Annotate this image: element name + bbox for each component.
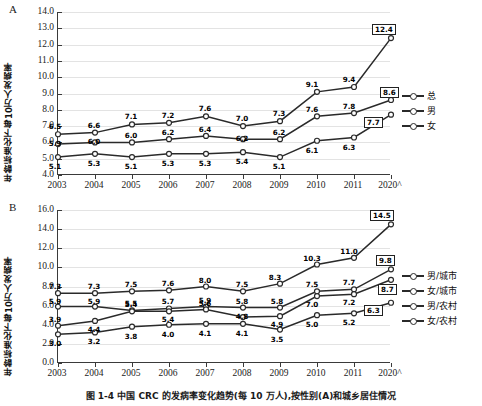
data-label: 10.3 — [300, 254, 324, 263]
data-label: 4.4 — [82, 325, 106, 334]
legend-item[interactable]: 女/农村 — [402, 313, 457, 328]
data-label: 6.0 — [82, 137, 106, 146]
data-label: 4.1 — [230, 329, 254, 338]
y-axis-tick-label: 0.0 — [42, 357, 54, 367]
data-point-marker — [315, 262, 320, 267]
data-label: 6.5 — [43, 122, 67, 131]
data-label: 5.1 — [267, 162, 291, 171]
data-point-marker — [56, 132, 61, 137]
x-axis-tick-mark — [391, 363, 392, 367]
data-point-marker — [204, 284, 209, 289]
data-label: 3.2 — [82, 337, 106, 346]
legend-label: 女/农村 — [427, 314, 457, 327]
y-axis-tick-label: 10.0 — [37, 261, 54, 271]
data-label: 7.7 — [364, 117, 383, 128]
data-label: 5.1 — [119, 162, 143, 171]
chart-panel-a: A 年龄标准化下每10万人发病率 总男女 4.05.06.07.08.09.01… — [0, 0, 482, 196]
data-point-marker — [352, 84, 357, 89]
data-point-marker — [130, 140, 135, 145]
data-label: 7.6 — [156, 279, 180, 288]
data-point-marker — [389, 222, 394, 227]
data-label: 7.2 — [156, 111, 180, 120]
chart-panel-b: B 年龄标准化下每10万人发病率 男/城市女/城市男/农村女/农村 0.02.0… — [0, 196, 482, 388]
data-label: 5.2 — [337, 318, 361, 327]
legend-marker-icon — [402, 121, 424, 131]
x-axis-tick-mark — [58, 363, 59, 367]
legend-label: 女 — [427, 119, 436, 132]
data-point-marker — [167, 151, 172, 156]
y-axis-tick-label: 14.0 — [37, 223, 54, 233]
data-point-marker — [130, 289, 135, 294]
legend-item[interactable]: 女 — [402, 118, 436, 133]
data-label: 3.9 — [43, 315, 67, 324]
data-point-marker — [389, 112, 394, 117]
data-label: 4.8 — [230, 312, 254, 321]
panel-b-y-axis-label: 年龄标准化下每10万人发病率 — [3, 212, 15, 376]
legend-item[interactable]: 男/农村 — [402, 298, 457, 313]
data-label: 5.3 — [193, 159, 217, 168]
data-point-marker — [56, 323, 61, 328]
x-axis-tick-mark — [132, 175, 133, 179]
y-axis-tick-label: 9.0 — [42, 88, 54, 98]
data-label: 7.5 — [300, 280, 324, 289]
legend-label: 男/城市 — [427, 269, 457, 282]
legend-item[interactable]: 男/城市 — [402, 268, 457, 283]
panel-a-y-axis-label: 年龄标准化下每10万人发病率 — [3, 14, 15, 182]
data-point-marker — [130, 155, 135, 160]
x-axis-tick-mark — [206, 175, 207, 179]
legend-marker-icon — [402, 286, 424, 296]
data-point-marker — [315, 294, 320, 299]
y-axis-tick-label: 11.0 — [38, 55, 54, 65]
data-label: 7.0 — [230, 114, 254, 123]
x-axis-tick-mark — [243, 175, 244, 179]
data-label: 5.3 — [156, 159, 180, 168]
x-axis-tick-mark — [317, 175, 318, 179]
data-point-marker — [56, 332, 61, 337]
data-label: 6.1 — [300, 146, 324, 155]
data-point-marker — [241, 124, 246, 129]
data-label: 3.5 — [265, 335, 289, 344]
data-point-marker — [167, 288, 172, 293]
data-point-marker — [204, 151, 209, 156]
data-point-marker — [278, 314, 283, 319]
data-label: 4.0 — [156, 330, 180, 339]
legend-marker-icon — [402, 301, 424, 311]
data-label: 7.3 — [43, 282, 67, 291]
data-label: 7.5 — [230, 280, 254, 289]
data-label: 5.0 — [300, 320, 324, 329]
data-label: 3.8 — [119, 332, 143, 341]
legend-label: 男/农村 — [427, 299, 457, 312]
data-label: 8.7 — [378, 284, 397, 295]
data-label: 8.0 — [193, 276, 217, 285]
legend-item[interactable]: 男 — [402, 103, 436, 118]
x-axis-tick-mark — [206, 363, 207, 367]
data-label: 7.7 — [337, 278, 361, 287]
legend-item[interactable]: 女/城市 — [402, 283, 457, 298]
data-point-marker — [241, 321, 246, 326]
x-axis-tick-mark — [58, 175, 59, 179]
data-label: 5.9 — [82, 297, 106, 306]
legend-marker-icon — [402, 106, 424, 116]
data-point-marker — [167, 137, 172, 142]
data-label: 7.2 — [337, 298, 361, 307]
legend-marker-icon — [402, 316, 424, 326]
data-point-marker — [241, 305, 246, 310]
data-point-marker — [167, 120, 172, 125]
data-label: 7.6 — [193, 104, 217, 113]
data-point-marker — [352, 311, 357, 316]
data-point-marker — [315, 114, 320, 119]
data-label: 7.1 — [119, 112, 143, 121]
data-label: 9.1 — [300, 80, 324, 89]
data-label: 12.4 — [372, 24, 396, 35]
data-point-marker — [93, 318, 98, 323]
legend-item[interactable]: 总 — [402, 88, 436, 103]
data-label: 4.1 — [193, 329, 217, 338]
data-point-marker — [56, 155, 61, 160]
y-axis-tick-label: 12.0 — [37, 242, 54, 252]
legend-label: 女/城市 — [427, 284, 457, 297]
data-point-marker — [389, 98, 394, 103]
data-point-marker — [56, 291, 61, 296]
legend-marker-icon — [402, 91, 424, 101]
data-label: 4.9 — [265, 320, 289, 329]
data-point-marker — [315, 313, 320, 318]
